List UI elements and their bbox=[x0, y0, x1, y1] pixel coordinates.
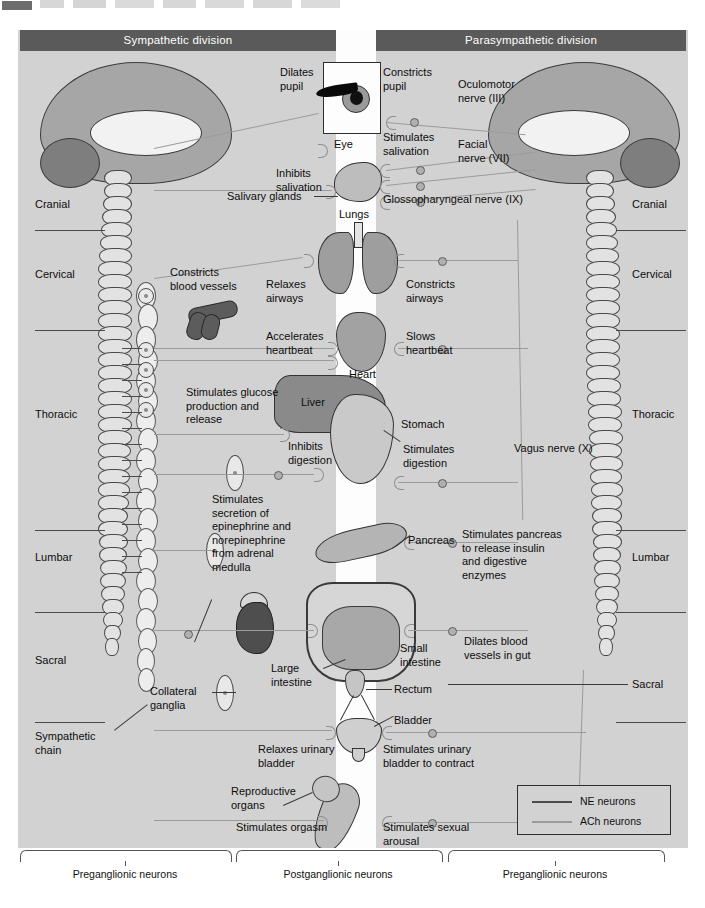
nerve-label-facial: Facial nerve (VII) bbox=[458, 138, 509, 165]
region-label-thoracic-right: Thoracic bbox=[632, 408, 674, 422]
collateral-ganglion-inferior-mesenteric bbox=[216, 675, 234, 711]
white-ramus bbox=[122, 428, 142, 429]
organ-label-eye: Eye bbox=[334, 138, 353, 152]
region-divider-right bbox=[616, 530, 686, 531]
effect-relaxes-urinary-bladder: Relaxes urinary bladder bbox=[258, 743, 334, 770]
effect-dilates-pupil: Dilates pupil bbox=[280, 66, 314, 93]
effect-stimulates-sexual-arousal: Stimulates sexual arousal bbox=[383, 821, 469, 848]
region-divider-left bbox=[35, 230, 105, 231]
region-divider-left bbox=[35, 612, 105, 613]
organ-label-lungs: Lungs bbox=[339, 208, 369, 222]
region-label-sacral-left: Sacral bbox=[35, 654, 66, 668]
synapse-node bbox=[416, 182, 425, 191]
autonomic-nervous-system-diagram: Sympathetic division Parasympathetic div… bbox=[18, 30, 688, 848]
effect-stimulates-salivation: Stimulates salivation bbox=[383, 131, 434, 158]
chain-ganglion bbox=[138, 342, 154, 358]
effect-constricts-blood-vessels: Constricts blood vessels bbox=[170, 266, 237, 293]
eye-illustration bbox=[323, 62, 381, 134]
sympathetic-division-banner: Sympathetic division bbox=[20, 30, 336, 51]
region-divider-left bbox=[35, 722, 105, 723]
white-ramus bbox=[122, 444, 142, 445]
effect-inhibits-digestion: Inhibits digestion bbox=[288, 440, 332, 467]
legend-label-ne-neurons: NE neurons bbox=[580, 795, 635, 807]
white-ramus bbox=[122, 508, 142, 509]
brace-label-postganglionic: Postganglionic neurons bbox=[268, 868, 408, 881]
nerve-terminal bbox=[380, 180, 390, 194]
white-ramus bbox=[122, 492, 142, 493]
nerve-path-para-bladder bbox=[386, 732, 586, 733]
white-ramus bbox=[122, 460, 142, 461]
synapse-node bbox=[184, 630, 193, 639]
legend-swatch-ach-neurons bbox=[532, 821, 572, 823]
region-divider-right bbox=[616, 612, 686, 613]
salivary-gland-illustration bbox=[334, 162, 382, 202]
leader-sympathetic-chain bbox=[114, 704, 148, 731]
effect-constricts-airways: Constricts airways bbox=[406, 278, 455, 305]
nerve-path-para-salivary-2 bbox=[386, 169, 535, 186]
collateral-ganglion-celiac bbox=[226, 455, 244, 491]
effect-constricts-pupil: Constricts pupil bbox=[383, 66, 432, 93]
organ-label-reproductive-organs: Reproductive organs bbox=[231, 785, 296, 812]
region-divider-left bbox=[35, 530, 105, 531]
leader-collateral-ganglia bbox=[212, 692, 236, 693]
nerve-terminal bbox=[318, 144, 328, 158]
region-label-cervical-left: Cervical bbox=[35, 268, 75, 282]
nerve-path-symp-bladder bbox=[154, 730, 332, 731]
brace-preganglionic-right bbox=[448, 850, 665, 862]
vagus-nerve-trunk bbox=[517, 220, 524, 520]
region-label-cranial-left: Cranial bbox=[35, 198, 70, 212]
white-ramus bbox=[122, 348, 142, 349]
synapse-node bbox=[438, 257, 447, 266]
effect-stimulates-bladder-contract: Stimulates urinary bladder to contract bbox=[383, 743, 474, 770]
white-ramus bbox=[122, 364, 142, 365]
bottom-brace-group: Preganglionic neurons Postganglionic neu… bbox=[0, 848, 705, 908]
nerve-terminal bbox=[326, 726, 336, 740]
synapse-node bbox=[410, 118, 419, 127]
nerve-path-symp-heart-2 bbox=[154, 360, 334, 361]
white-ramus bbox=[122, 524, 142, 525]
parasympathetic-division-banner: Parasympathetic division bbox=[376, 30, 686, 51]
kidney-illustration bbox=[236, 602, 274, 654]
nerve-path-symp-liver bbox=[154, 434, 284, 435]
synapse-node bbox=[448, 627, 457, 636]
brain-right-corpus-callosum bbox=[518, 110, 630, 156]
running-head-text-ghost bbox=[40, 0, 340, 8]
white-ramus bbox=[122, 556, 142, 557]
nerve-terminal bbox=[386, 116, 396, 130]
region-label-sacral-right: Sacral bbox=[632, 678, 663, 692]
nerve-path-symp-intestine bbox=[154, 630, 314, 631]
region-divider-right bbox=[616, 722, 686, 723]
white-ramus bbox=[122, 572, 142, 573]
effect-stimulates-digestion: Stimulates digestion bbox=[403, 443, 454, 470]
effect-stimulates-pancreas: Stimulates pancreas to release insulin a… bbox=[462, 528, 562, 582]
synapse-node bbox=[438, 479, 447, 488]
brace-preganglionic-left bbox=[20, 850, 232, 862]
effect-stimulates-orgasm: Stimulates orgasm bbox=[236, 821, 327, 835]
brace-label-preganglionic-left: Preganglionic neurons bbox=[55, 868, 195, 881]
synapse-node bbox=[416, 166, 425, 175]
stomach-illustration bbox=[330, 394, 394, 484]
nerve-terminal bbox=[394, 476, 404, 490]
white-ramus bbox=[122, 476, 142, 477]
organ-label-stomach: Stomach bbox=[401, 418, 444, 432]
running-head-block bbox=[2, 1, 32, 10]
nerve-label-glossopharyngeal: Glossopharyngeal nerve (IX) bbox=[383, 193, 523, 207]
brain-right-cerebellum bbox=[620, 138, 680, 188]
nerve-path-symp-adrenal bbox=[154, 550, 214, 551]
organ-label-heart: Heart bbox=[349, 368, 376, 382]
region-label-cervical-right: Cervical bbox=[632, 268, 672, 282]
nerve-path-symp-stomach bbox=[154, 474, 314, 475]
region-divider-left bbox=[35, 330, 105, 331]
brace-nub bbox=[555, 861, 556, 866]
legend-box: NE neurons ACh neurons bbox=[517, 785, 671, 835]
region-label-thoracic-left: Thoracic bbox=[35, 408, 77, 422]
sacral-leader-right bbox=[448, 684, 628, 685]
nerve-terminal bbox=[404, 624, 414, 638]
brain-left-cerebellum bbox=[40, 138, 100, 188]
nerve-path-para-intestine bbox=[408, 630, 528, 631]
nerve-path-para-stomach bbox=[398, 482, 518, 483]
effect-stimulates-glucose: Stimulates glucose production and releas… bbox=[186, 386, 278, 427]
effect-relaxes-airways: Relaxes airways bbox=[266, 278, 306, 305]
label-sympathetic-chain: Sympathetic chain bbox=[35, 730, 96, 757]
legend-swatch-ne-neurons bbox=[532, 801, 572, 803]
